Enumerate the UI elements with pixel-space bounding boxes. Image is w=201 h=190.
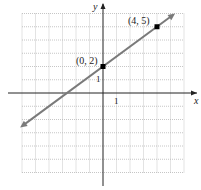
x-axis-label: x [193,95,199,106]
y-tick-label: 1 [96,74,101,84]
data-point [101,64,106,69]
graph-line [20,13,175,127]
point-label: (4, 5) [128,15,150,27]
x-tick-label: 1 [114,96,119,106]
point-label: (0, 2) [76,55,98,67]
data-points: (0, 2)(4, 5) [76,15,160,69]
data-point [155,24,160,29]
y-axis-arrow-icon [101,3,106,9]
y-axis-label: y [92,1,98,12]
coordinate-plane: x y 1 1 (0, 2)(4, 5) [0,0,201,190]
